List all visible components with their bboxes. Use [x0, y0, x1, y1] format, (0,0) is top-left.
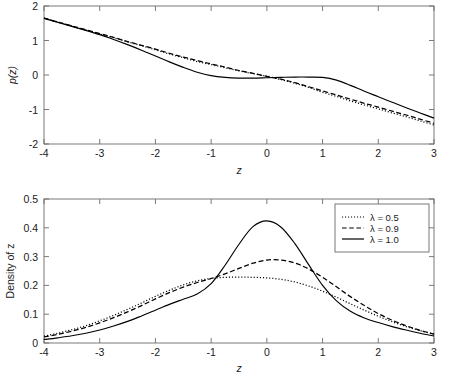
top-panel-x-tick-labels: -4 -3 -2 -1 0 1 2 3 — [39, 147, 437, 159]
top-panel-x-ticks — [44, 6, 434, 144]
x-tick-label: 2 — [375, 147, 381, 159]
y-tick-label: 0 — [32, 69, 38, 81]
legend-label: λ = 1.0 — [370, 234, 399, 245]
curve-dashed — [44, 18, 434, 123]
legend: λ = 0.5 λ = 0.9 λ = 1.0 — [335, 204, 429, 252]
curve-dotted — [44, 277, 434, 336]
x-tick-label: 1 — [320, 147, 326, 159]
x-tick-label: 1 — [320, 346, 326, 358]
bottom-panel-x-axis-title: z — [235, 362, 242, 374]
x-tick-label: -3 — [95, 346, 104, 358]
x-tick-label: 0 — [264, 147, 270, 159]
y-tick-label: 0.5 — [23, 193, 38, 205]
x-tick-label: 0 — [264, 346, 270, 358]
top-panel-y-axis-title: p(z) — [6, 66, 18, 85]
x-tick-label: 3 — [431, 147, 437, 159]
x-tick-label: -3 — [95, 147, 104, 159]
bottom-panel-x-tick-labels: -4 -3 -2 -1 0 1 2 3 — [39, 346, 437, 358]
curve-dashed — [44, 260, 434, 337]
legend-label: λ = 0.9 — [370, 223, 399, 234]
top-panel-x-axis-title: z — [235, 164, 242, 176]
x-tick-label: -1 — [206, 147, 215, 159]
y-tick-label: 0.3 — [23, 251, 38, 263]
bottom-panel-y-tick-labels: 0.5 0.4 0.3 0.2 0.1 0 — [23, 193, 38, 349]
figure-canvas: 2 1 0 -1 -2 -4 -3 -2 -1 0 1 2 3 z p(z) — [0, 0, 451, 375]
top-panel-svg: 2 1 0 -1 -2 -4 -3 -2 -1 0 1 2 3 z p(z) — [0, 0, 451, 185]
x-tick-label: -4 — [39, 147, 48, 159]
y-tick-label: -2 — [29, 138, 38, 150]
bottom-panel-y-axis-title: Density of z — [4, 244, 16, 299]
top-panel-y-ticks — [44, 6, 434, 144]
x-tick-label: 3 — [431, 346, 437, 358]
bottom-panel-svg: 0.5 0.4 0.3 0.2 0.1 0 -4 -3 -2 -1 0 1 2 … — [0, 185, 451, 375]
y-tick-label: 2 — [32, 0, 38, 12]
curve-dotted — [44, 18, 434, 125]
top-panel: 2 1 0 -1 -2 -4 -3 -2 -1 0 1 2 3 z p(z) — [0, 0, 451, 185]
bottom-panel: 0.5 0.4 0.3 0.2 0.1 0 -4 -3 -2 -1 0 1 2 … — [0, 185, 451, 375]
x-tick-label: -2 — [151, 346, 160, 358]
x-tick-label: -1 — [206, 346, 215, 358]
x-tick-label: 2 — [375, 346, 381, 358]
y-tick-label: 0.2 — [23, 279, 38, 291]
top-panel-y-tick-labels: 2 1 0 -1 -2 — [29, 0, 39, 150]
x-tick-label: -4 — [39, 346, 48, 358]
legend-label: λ = 0.5 — [370, 212, 399, 223]
x-tick-label: -2 — [151, 147, 160, 159]
curve-solid — [44, 18, 434, 118]
y-tick-label: -1 — [29, 104, 38, 116]
y-tick-label: 1 — [32, 35, 38, 47]
top-panel-curves — [44, 18, 434, 125]
y-tick-label: 0.4 — [23, 222, 38, 234]
y-tick-label: 0 — [32, 337, 38, 349]
top-panel-axes-frame — [44, 6, 434, 144]
y-tick-label: 0.1 — [23, 308, 38, 320]
